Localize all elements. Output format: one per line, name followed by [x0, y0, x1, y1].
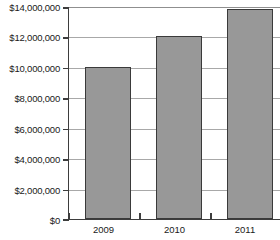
bar-chart: $14,000,000 $12,000,000 $10,000,000 $8,0…	[0, 0, 280, 240]
y-axis-tick-label: $14,000,000	[0, 3, 60, 13]
x-axis-tick	[210, 213, 212, 219]
bar-2010[interactable]	[156, 36, 202, 219]
bar-2009[interactable]	[85, 67, 131, 219]
y-axis-tick-label: $12,000,000	[0, 33, 60, 43]
x-axis-label-2011: 2011	[210, 224, 280, 235]
x-axis-tick	[68, 213, 70, 219]
y-axis-tick-label: $8,000,000	[0, 94, 60, 104]
bars-layer	[69, 7, 280, 219]
y-axis-tick	[63, 219, 69, 221]
plot-area	[68, 7, 280, 220]
y-axis-tick-label: $4,000,000	[0, 155, 60, 165]
x-axis-label-2010: 2010	[139, 224, 210, 235]
y-axis-tick-label: $6,000,000	[0, 125, 60, 135]
y-axis-tick-label: $0	[0, 216, 60, 226]
x-axis-tick	[139, 213, 141, 219]
y-axis-tick-label: $2,000,000	[0, 186, 60, 196]
y-axis-tick-label: $10,000,000	[0, 64, 60, 74]
bar-2011[interactable]	[227, 9, 273, 219]
x-axis-label-2009: 2009	[68, 224, 139, 235]
